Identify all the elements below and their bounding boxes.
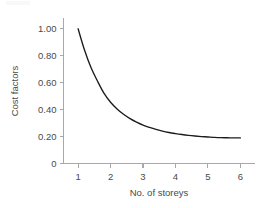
x-tick-label: 5: [205, 171, 210, 182]
x-axis-ticks: [78, 164, 240, 168]
cost-factor-curve: [78, 29, 240, 138]
y-tick-label: 0: [51, 158, 56, 169]
x-tick-label: 3: [140, 171, 145, 182]
y-axis-ticks: [60, 29, 64, 164]
x-axis-tick-labels: 123456: [75, 171, 243, 182]
x-axis-title: No. of storeys: [130, 187, 189, 198]
line-chart: 00.200.400.600.801.00 123456 No. of stor…: [0, 0, 270, 208]
y-axis-title: Cost factors: [9, 65, 20, 116]
chart-figure: 00.200.400.600.801.00 123456 No. of stor…: [0, 0, 270, 208]
y-tick-label: 1.00: [38, 23, 57, 34]
x-tick-label: 2: [108, 171, 113, 182]
y-axis-tick-labels: 00.200.400.600.801.00: [38, 23, 57, 169]
x-tick-label: 1: [75, 171, 80, 182]
y-axis-group: 00.200.400.600.801.00: [38, 18, 64, 169]
x-tick-label: 6: [238, 171, 243, 182]
y-tick-label: 0.20: [38, 131, 57, 142]
y-tick-label: 0.80: [38, 50, 57, 61]
y-tick-label: 0.60: [38, 77, 57, 88]
y-tick-label: 0.40: [38, 104, 57, 115]
x-axis-group: 123456: [64, 164, 256, 182]
x-tick-label: 4: [173, 171, 178, 182]
